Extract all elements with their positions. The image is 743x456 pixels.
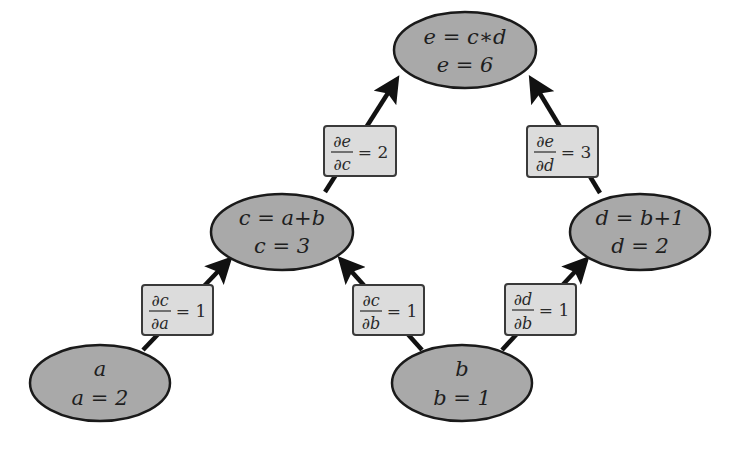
edge-label-de-dc: ∂e ∂c = 2 xyxy=(324,126,396,176)
node-a-value: a = 2 xyxy=(72,386,129,410)
node-d-value: d = 2 xyxy=(611,234,669,258)
numerator: ∂e xyxy=(536,132,554,151)
value: = 1 xyxy=(539,300,569,320)
numerator: ∂c xyxy=(362,291,379,310)
node-c: c = a+b c = 3 xyxy=(211,194,353,270)
edge-label-dd-db: ∂d ∂b = 1 xyxy=(505,284,576,335)
denominator: ∂a xyxy=(151,314,169,333)
value: = 3 xyxy=(561,142,591,162)
denominator: ∂d xyxy=(536,156,555,175)
node-c-value: c = 3 xyxy=(254,234,310,258)
edge-label-dc-db: ∂c ∂b = 1 xyxy=(353,285,424,335)
node-a: a a = 2 xyxy=(30,345,170,421)
denominator: ∂b xyxy=(362,314,381,333)
edge-label-de-dd: ∂e ∂d = 3 xyxy=(527,126,598,177)
node-e-value: e = 6 xyxy=(437,53,494,77)
edge-label-dc-da: ∂c ∂a = 1 xyxy=(142,285,213,335)
value: = 2 xyxy=(358,142,388,162)
node-e: e = c∗d e = 6 xyxy=(394,12,536,88)
node-d: d = b+1 d = 2 xyxy=(570,194,710,270)
node-e-expression: e = c∗d xyxy=(424,25,507,49)
node-b-expression: b xyxy=(455,357,468,381)
value: = 1 xyxy=(387,301,417,321)
node-c-expression: c = a+b xyxy=(239,206,325,230)
node-a-expression: a xyxy=(94,357,107,381)
numerator: ∂d xyxy=(514,290,533,309)
computational-graph: ∂e ∂c = 2 ∂e ∂d = 3 ∂c ∂a = 1 ∂c ∂b = 1 … xyxy=(0,0,743,456)
denominator: ∂b xyxy=(514,314,533,333)
numerator: ∂e xyxy=(333,132,351,151)
numerator: ∂c xyxy=(151,291,168,310)
denominator: ∂c xyxy=(333,155,350,174)
value: = 1 xyxy=(176,301,206,321)
node-b-value: b = 1 xyxy=(433,386,491,410)
node-d-expression: d = b+1 xyxy=(596,206,685,230)
node-b: b b = 1 xyxy=(392,345,532,421)
